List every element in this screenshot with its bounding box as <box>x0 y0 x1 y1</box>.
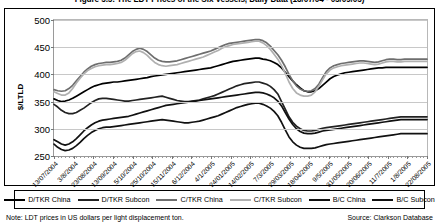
x-axis-minor-tick <box>121 156 122 158</box>
x-axis-minor-tick <box>412 156 413 158</box>
x-axis-minor-tick <box>76 156 77 158</box>
x-axis-minor-tick <box>173 156 174 158</box>
legend-item[interactable]: B/C China <box>309 195 366 204</box>
x-axis-minor-tick <box>188 156 189 158</box>
x-axis-minor-tick <box>99 156 100 158</box>
y-gridline <box>54 47 427 48</box>
x-axis-minor-tick <box>88 156 89 158</box>
x-axis-minor-tick <box>226 156 227 158</box>
x-axis-minor-tick <box>341 156 342 158</box>
legend-label: C/TKR Subcon <box>254 195 302 204</box>
y-axis-tick-mark <box>51 20 54 21</box>
x-axis-minor-tick <box>252 156 253 158</box>
y-axis-tick-mark <box>51 102 54 103</box>
x-axis-minor-tick <box>117 156 118 158</box>
x-axis-minor-tick <box>69 156 70 158</box>
x-axis-minor-tick <box>311 156 312 158</box>
x-axis-minor-tick <box>416 156 417 158</box>
legend-swatch <box>372 199 393 201</box>
series-lines <box>54 20 427 156</box>
x-axis-minor-tick <box>326 156 327 158</box>
legend-swatch <box>156 199 177 201</box>
x-axis-minor-tick <box>315 156 316 158</box>
x-axis-minor-tick <box>80 156 81 158</box>
x-axis-minor-tick <box>300 156 301 158</box>
x-axis-minor-tick <box>155 156 156 158</box>
x-axis-minor-tick <box>263 156 264 158</box>
x-axis-minor-tick <box>405 156 406 158</box>
x-axis-minor-tick <box>222 156 223 158</box>
x-axis-tick-mark <box>427 156 428 159</box>
x-axis-minor-tick <box>241 156 242 158</box>
legend-item[interactable]: D/TKR China <box>4 195 70 204</box>
x-axis-minor-tick <box>390 156 391 158</box>
y-axis-tick-mark <box>51 74 54 75</box>
figure-title: Figure 5.5: The LDT Prices of the Six Ve… <box>0 0 439 5</box>
x-axis-minor-tick <box>319 156 320 158</box>
x-axis-minor-tick <box>136 156 137 158</box>
legend-item[interactable]: C/TKR China <box>156 195 222 204</box>
x-axis-minor-tick <box>255 156 256 158</box>
x-axis-minor-tick <box>285 156 286 158</box>
legend-item[interactable]: D/TKR Subcon <box>78 195 150 204</box>
x-axis-minor-tick <box>170 156 171 158</box>
x-axis-minor-tick <box>125 156 126 158</box>
legend-item[interactable]: B/C Subcon <box>372 195 434 204</box>
x-axis-tick-mark <box>309 156 310 159</box>
y-axis-tick-label: 350 <box>34 96 50 107</box>
x-axis-minor-tick <box>304 156 305 158</box>
x-axis-minor-tick <box>259 156 260 158</box>
x-axis-tick-mark <box>388 156 389 159</box>
y-axis-tick-label: 500 <box>34 15 50 26</box>
x-axis-minor-tick <box>364 156 365 158</box>
x-axis-tick-mark <box>270 156 271 159</box>
x-axis-minor-tick <box>375 156 376 158</box>
x-axis-minor-tick <box>166 156 167 158</box>
x-axis-minor-tick <box>352 156 353 158</box>
x-axis-minor-tick <box>91 156 92 158</box>
x-axis-minor-tick <box>140 156 141 158</box>
chart-frame: $/LTLD 25030035040045050013/07/20043/8/2… <box>4 8 435 186</box>
x-axis-tick-mark <box>113 156 114 159</box>
y-axis-tick-label: 250 <box>34 151 50 162</box>
x-axis-minor-tick <box>408 156 409 158</box>
x-axis-tick-mark <box>368 156 369 159</box>
x-axis-tick-mark <box>93 156 94 159</box>
y-axis-tick-mark <box>51 129 54 130</box>
x-axis-minor-tick <box>181 156 182 158</box>
x-axis-minor-tick <box>282 156 283 158</box>
legend-swatch <box>78 199 99 201</box>
x-axis-minor-tick <box>185 156 186 158</box>
x-axis-tick-mark <box>54 156 55 159</box>
legend-swatch <box>230 199 251 201</box>
legend-label: B/C Subcon <box>396 195 434 204</box>
footnote-note: Note: LDT prices in US dollars per light… <box>6 214 184 221</box>
x-axis-minor-tick <box>102 156 103 158</box>
x-axis-minor-tick <box>293 156 294 158</box>
x-axis-tick-mark <box>231 156 232 159</box>
y-gridline <box>54 102 427 103</box>
x-axis-tick-mark <box>407 156 408 159</box>
legend-item[interactable]: C/TKR Subcon <box>230 195 302 204</box>
y-gridline <box>54 129 427 130</box>
y-axis-tick-label: 450 <box>34 42 50 53</box>
x-axis-minor-tick <box>144 156 145 158</box>
x-axis-minor-tick <box>58 156 59 158</box>
legend-swatch <box>4 199 25 201</box>
x-axis-minor-tick <box>356 156 357 158</box>
x-axis-minor-tick <box>267 156 268 158</box>
y-axis-tick-label: 400 <box>34 69 50 80</box>
y-axis-title: $/LTLD <box>16 84 25 111</box>
x-axis-minor-tick <box>177 156 178 158</box>
series-line <box>54 103 427 150</box>
x-axis-tick-mark <box>211 156 212 159</box>
x-axis-minor-tick <box>147 156 148 158</box>
x-axis-minor-tick <box>401 156 402 158</box>
x-axis-minor-tick <box>218 156 219 158</box>
x-axis-minor-tick <box>203 156 204 158</box>
x-axis-minor-tick <box>323 156 324 158</box>
x-axis-minor-tick <box>330 156 331 158</box>
x-axis-minor-tick <box>278 156 279 158</box>
y-axis-tick-label: 300 <box>34 123 50 134</box>
y-axis-tick-mark <box>51 47 54 48</box>
